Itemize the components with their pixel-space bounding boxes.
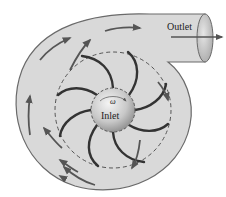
outlet-label: Outlet	[167, 21, 192, 32]
outlet-pipe-end	[197, 14, 213, 62]
centrifugal-pump-diagram: Outlet ω Inlet	[0, 0, 226, 197]
inlet-label: Inlet	[101, 110, 120, 121]
omega-label: ω	[110, 97, 116, 106]
